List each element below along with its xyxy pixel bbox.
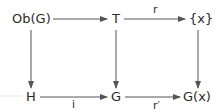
node-x-set: {x} [189, 12, 213, 26]
node-g: G [111, 90, 121, 104]
node-ob-g: Ob(G) [12, 12, 51, 26]
label-r: r [153, 4, 158, 16]
node-t: T [112, 12, 120, 26]
node-h: H [26, 90, 36, 104]
label-r-prime: r′ [153, 100, 160, 111]
label-i: i [72, 99, 75, 111]
node-g-x: G(x) [183, 90, 211, 104]
